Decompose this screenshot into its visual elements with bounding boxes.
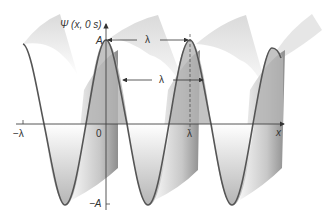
- amplitude-negative-label: −A: [89, 199, 102, 209]
- amplitude-positive-label: A: [96, 36, 103, 46]
- origin-label: 0: [96, 129, 102, 139]
- x-axis-label: x: [276, 128, 281, 138]
- wave-ribbon-surface: [23, 14, 322, 205]
- wavelength-label-middle: λ: [159, 75, 164, 85]
- tick-label-lambda: λ: [187, 129, 192, 139]
- y-axis-label: Ψ (x, 0 s): [60, 20, 102, 30]
- tick-label-neg-lambda: −λ: [13, 129, 24, 139]
- wave-diagram: [0, 0, 329, 215]
- wavelength-label-top: λ: [145, 35, 150, 45]
